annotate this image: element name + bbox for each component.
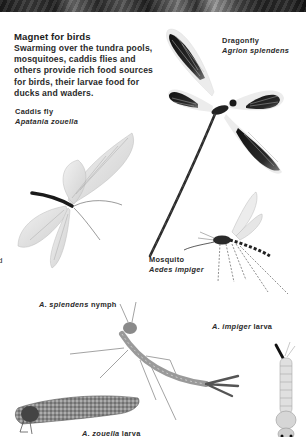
mosquito-latin-name: Aedes impiger <box>149 265 204 275</box>
caddis-larva-label: A. zouella larva <box>82 429 141 437</box>
edge-text-fragment: d <box>0 256 3 266</box>
caddis-fly-common-name: Caddis fly <box>15 107 78 117</box>
mosquito-larva-illustration <box>276 342 296 437</box>
mosquito-label: Mosquito Aedes impiger <box>149 255 204 274</box>
mosquito-larva-latin-name: A. impiger <box>212 322 251 331</box>
caddis-larva-latin-name: A. zouella <box>82 429 120 437</box>
mosquito-illustration <box>184 192 288 294</box>
dragonfly-common-name: Dragonfly <box>222 36 289 46</box>
mosquito-larva-suffix: larva <box>251 322 272 331</box>
mosquito-common-name: Mosquito <box>149 255 204 265</box>
caddis-fly-latin-name: Apatania zouella <box>15 117 78 127</box>
nymph-label: A. splendens nymph <box>39 300 117 310</box>
dragonfly-label: Dragonfly Agrion splendens <box>222 36 289 55</box>
dragonfly-illustration <box>150 29 284 256</box>
nymph-latin-name: A. splendens <box>39 300 89 309</box>
caddis-fly-illustration <box>18 133 134 268</box>
nymph-suffix: nymph <box>89 300 117 309</box>
mosquito-larva-label: A. impiger larva <box>212 322 272 332</box>
dragonfly-latin-name: Agrion splendens <box>222 46 289 56</box>
illustrations <box>0 0 306 437</box>
caddis-fly-label: Caddis fly Apatania zouella <box>15 107 78 126</box>
caddis-larva-suffix: larva <box>120 429 141 437</box>
